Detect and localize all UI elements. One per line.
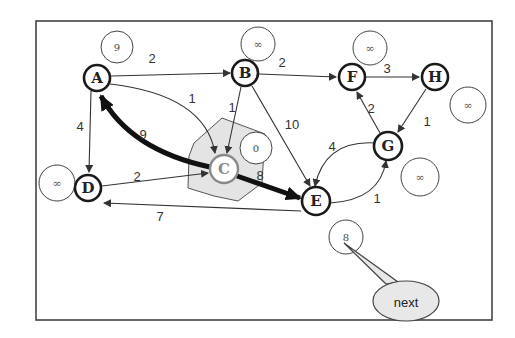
graph-diagram: 2 1 4 9 1 2 10 2 8 7 3 1 2 4 1 9 ∞ 0 ∞ 8…: [0, 0, 515, 338]
distance-g: ∞: [415, 171, 424, 184]
weight-a-b: 2: [148, 51, 155, 66]
node-g-label: G: [382, 137, 395, 155]
weight-g-f: 2: [367, 101, 374, 116]
weight-f-h: 3: [383, 61, 390, 76]
node-b-label: B: [239, 64, 252, 82]
weight-h-g: 1: [423, 114, 430, 129]
node-d-label: D: [81, 179, 94, 197]
weight-a-d: 4: [76, 119, 83, 134]
distance-f: ∞: [365, 42, 374, 55]
distance-e: 8: [343, 232, 349, 243]
weight-c-a: 9: [139, 127, 146, 142]
node-c-label: C: [218, 160, 230, 178]
distance-b: ∞: [253, 38, 262, 51]
weight-d-c: 2: [133, 169, 140, 184]
weight-b-e: 10: [285, 117, 299, 132]
weight-e-g: 1: [373, 191, 380, 206]
next-callout-text: next: [394, 295, 419, 310]
node-a-label: A: [90, 69, 103, 87]
weight-c-e: 8: [256, 168, 263, 183]
weight-a-c: 1: [188, 91, 195, 106]
weight-e-d: 7: [156, 209, 163, 224]
node-e-label: E: [310, 192, 321, 210]
distance-c: 0: [253, 143, 259, 154]
node-f-label: F: [347, 68, 358, 86]
node-h-label: H: [428, 68, 442, 86]
distance-a: 9: [114, 42, 120, 53]
weight-b-c: 1: [228, 100, 235, 115]
distance-d: ∞: [52, 177, 61, 190]
weight-b-f: 2: [278, 55, 285, 70]
distance-h: ∞: [463, 99, 472, 112]
weight-g-e: 4: [328, 139, 335, 154]
